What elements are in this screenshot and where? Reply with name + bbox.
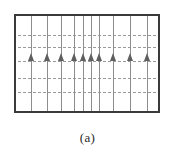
flow-line [47, 16, 48, 111]
flow-arrow-icon [127, 53, 133, 61]
flow-arrow-icon [88, 53, 94, 61]
diagram-inner [16, 16, 158, 111]
flow-line [31, 16, 32, 111]
flow-arrow-icon [80, 53, 86, 61]
flow-arrow-icon [71, 53, 77, 61]
flow-arrow-icon [58, 53, 64, 61]
flow-line [74, 16, 75, 111]
flow-arrow-icon [28, 53, 34, 61]
flow-line [83, 16, 84, 111]
equipotential-line [18, 92, 156, 93]
figure-caption: (a) [0, 130, 175, 146]
flow-arrow-icon [96, 53, 102, 61]
flow-arrow-icon [110, 53, 116, 61]
flow-line [113, 16, 114, 111]
figure-panel: (a) [0, 0, 175, 160]
flow-line [99, 16, 100, 111]
equipotential-line [18, 35, 156, 36]
equipotential-line [18, 78, 156, 79]
flow-line [61, 16, 62, 111]
flow-arrow-icon [44, 53, 50, 61]
flow-arrow-icon [144, 53, 150, 61]
equipotential-line [18, 47, 156, 48]
diagram-frame [14, 14, 160, 113]
flow-line [147, 16, 148, 111]
flow-line [91, 16, 92, 111]
flow-line [130, 16, 131, 111]
